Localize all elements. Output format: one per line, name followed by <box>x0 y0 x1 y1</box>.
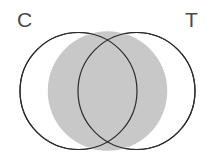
venn-intersection-region[interactable] <box>48 31 168 151</box>
venn-label-left-c: C <box>17 8 33 31</box>
venn-diagram-figure: C T <box>0 0 211 162</box>
venn-label-right-t: T <box>185 8 198 31</box>
venn-diagram-canvas: C T <box>0 0 211 162</box>
